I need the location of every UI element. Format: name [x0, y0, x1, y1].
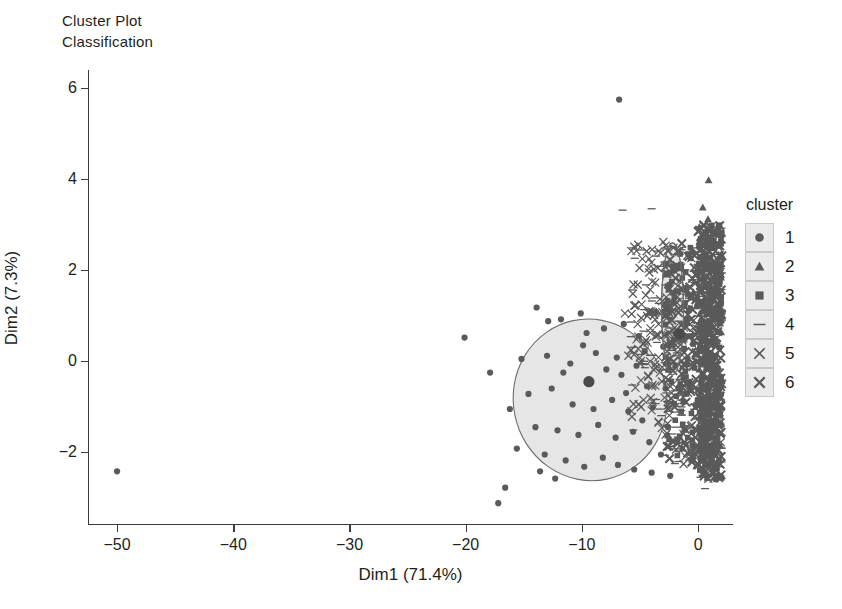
y-tick	[81, 88, 88, 89]
data-point-circle	[567, 360, 573, 366]
data-point-square	[670, 264, 676, 270]
data-point-square	[675, 439, 681, 445]
data-point-circle	[575, 432, 581, 438]
data-point-circle	[537, 468, 543, 474]
y-tick	[81, 270, 88, 271]
data-point-circle	[502, 485, 508, 491]
data-point-circle	[631, 466, 637, 472]
data-point-square	[680, 399, 686, 405]
data-point-circle	[600, 455, 606, 461]
data-point-square	[719, 475, 725, 481]
y-tick-label: 6	[68, 79, 77, 97]
data-point-circle	[583, 330, 589, 336]
cluster-plot-figure: Cluster PlotClassification −20246−50−40−…	[0, 0, 842, 609]
data-point-cross	[628, 310, 636, 318]
data-point-cross	[638, 255, 646, 263]
legend-item-6[interactable]: 6	[745, 368, 840, 397]
data-point-square	[690, 341, 696, 347]
data-point-circle	[593, 350, 599, 356]
data-point-square	[683, 270, 689, 276]
data-point-square	[678, 409, 684, 415]
data-point-cross	[654, 353, 662, 361]
data-point-square	[713, 416, 719, 422]
data-point-square	[714, 441, 720, 447]
data-point-circle	[590, 406, 596, 412]
data-point-circle	[514, 445, 520, 451]
data-point-circle	[618, 372, 624, 378]
data-point-square	[670, 299, 676, 305]
data-point-circle	[552, 475, 558, 481]
data-point-circle	[667, 473, 673, 479]
legend-title: cluster	[745, 196, 840, 214]
x-tick-label: −50	[103, 536, 130, 554]
legend-item-5[interactable]: 5	[745, 339, 840, 368]
data-point-cross	[678, 240, 686, 248]
y-tick-label: 4	[68, 170, 77, 188]
data-point-circle	[518, 356, 524, 362]
data-point-triangle	[699, 204, 707, 211]
data-point-circle	[542, 451, 548, 457]
y-tick-label: 0	[68, 352, 77, 370]
data-point-circle	[621, 321, 627, 327]
data-point-cross	[629, 290, 637, 298]
data-point-circle	[544, 353, 550, 359]
x-tick-label: −40	[220, 536, 247, 554]
legend-item-1[interactable]: 1	[745, 223, 840, 252]
data-point-square	[670, 290, 676, 296]
data-point-square	[680, 421, 686, 427]
legend-item-2[interactable]: 2	[745, 252, 840, 281]
data-point-circle	[614, 354, 620, 360]
x-axis-line	[88, 524, 733, 525]
data-point-circle	[495, 500, 501, 506]
x-tick	[466, 525, 467, 532]
data-point-square	[671, 401, 677, 407]
data-point-circle	[646, 439, 652, 445]
legend-swatch	[745, 339, 774, 368]
data-point-square	[675, 453, 681, 459]
data-point-square	[715, 436, 721, 442]
data-point-circle	[603, 366, 609, 372]
data-point-circle	[114, 468, 120, 474]
data-point-square	[707, 410, 713, 416]
circle-marker	[750, 228, 769, 247]
x-tick-label: 0	[694, 536, 703, 554]
data-point-circle	[595, 422, 601, 428]
data-point-circle	[580, 342, 586, 348]
legend-item-label: 6	[785, 373, 794, 393]
data-point-circle	[560, 369, 566, 375]
cluster-centroid	[583, 376, 594, 387]
data-point-square	[682, 427, 688, 433]
data-point-circle	[487, 369, 493, 375]
y-tick	[81, 179, 88, 180]
data-point-circle	[545, 318, 551, 324]
data-point-circle	[558, 316, 564, 322]
x-tick-label: −20	[452, 536, 479, 554]
data-point-cross	[651, 279, 659, 287]
legend-swatch	[745, 368, 774, 397]
data-point-cross	[643, 247, 651, 255]
data-point-circle	[601, 325, 607, 331]
page-title: Cluster PlotClassification	[62, 10, 153, 52]
data-point-circle	[507, 406, 513, 412]
cross-marker	[750, 344, 769, 363]
data-point-circle	[623, 390, 629, 396]
data-point-square	[703, 445, 709, 451]
data-point-cross	[680, 460, 688, 468]
legend-item-label: 5	[785, 344, 794, 364]
cross-bold-marker	[750, 373, 769, 392]
data-point-circle	[639, 417, 645, 423]
legend-swatch	[745, 223, 774, 252]
legend-item-label: 4	[785, 315, 794, 335]
data-point-square	[700, 377, 706, 383]
legend-swatch	[745, 252, 774, 281]
legend-item-3[interactable]: 3	[745, 281, 840, 310]
cluster-centroid	[674, 328, 685, 339]
legend-item-4[interactable]: 4	[745, 310, 840, 339]
legend-swatch	[745, 310, 774, 339]
data-point-circle	[649, 470, 655, 476]
data-point-cross-bold	[699, 221, 707, 229]
square-marker	[750, 286, 769, 305]
data-point-cross	[630, 281, 638, 289]
title-line-1: Cluster Plot	[62, 12, 142, 29]
triangle-marker	[750, 257, 769, 276]
